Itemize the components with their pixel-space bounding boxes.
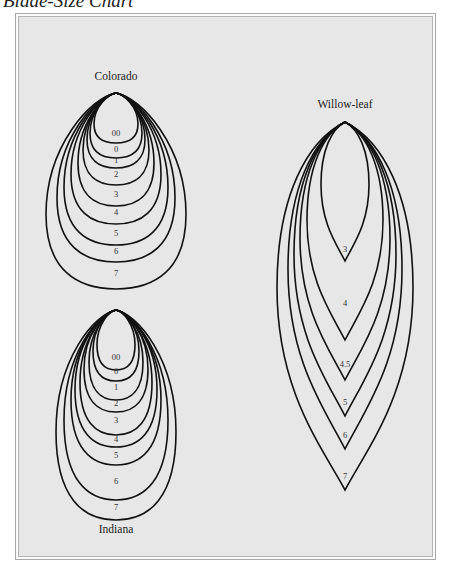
indiana-size-label: 2	[114, 398, 118, 408]
colorado-blade-group: Colorado 0001234567	[46, 70, 186, 289]
colorado-size-label: 00	[112, 128, 121, 138]
colorado-size-label: 6	[114, 246, 118, 256]
willow-leaf-blade-size-3-outline	[321, 122, 369, 261]
indiana-size-label: 0	[114, 366, 118, 376]
indiana-size-label: 00	[112, 352, 121, 362]
colorado-size-label: 0	[114, 144, 118, 154]
indiana-size-label: 5	[114, 450, 118, 460]
colorado-size-label: 2	[114, 169, 118, 179]
colorado-size-label: 4	[114, 207, 119, 217]
willow-leaf-size-label: 3	[343, 244, 347, 254]
willow-leaf-size-label: 6	[343, 430, 347, 440]
indiana-size-label: 7	[114, 502, 118, 512]
blade-size-diagram: Colorado 0001234567 Indiana 0001234567 W…	[0, 0, 457, 568]
colorado-label: Colorado	[95, 70, 138, 82]
colorado-size-label: 7	[114, 268, 118, 278]
indiana-size-label: 1	[114, 382, 118, 392]
indiana-size-label: 6	[114, 476, 118, 486]
willow-leaf-blade-group: Willow-leaf 344.5567	[277, 98, 413, 490]
willow-leaf-size-label: 4.5	[340, 359, 351, 369]
willow-leaf-size-label: 5	[343, 397, 347, 407]
willow-leaf-blade-size-5-outline	[294, 122, 396, 416]
indiana-size-label: 3	[114, 415, 118, 425]
indiana-blade-group: Indiana 0001234567	[56, 310, 176, 535]
willow-leaf-size-label: 7	[343, 471, 347, 481]
colorado-size-label: 5	[114, 228, 118, 238]
indiana-label: Indiana	[99, 523, 133, 535]
colorado-size-label: 3	[114, 189, 118, 199]
colorado-size-label: 1	[114, 155, 118, 165]
willow-leaf-label: Willow-leaf	[317, 98, 372, 110]
willow-leaf-size-label: 4	[343, 298, 348, 308]
